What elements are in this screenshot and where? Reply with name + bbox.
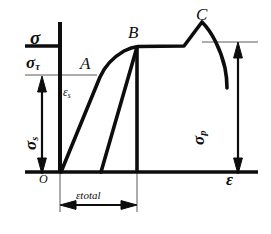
sigma-s-dimension-arrow bbox=[38, 76, 47, 174]
sigma-p-dimension-arrow bbox=[234, 42, 243, 174]
loading-curve bbox=[61, 22, 227, 172]
epsilon-total-subscript: total bbox=[80, 189, 100, 201]
sigma-p-symbol: σ bbox=[189, 136, 208, 145]
arrowhead-right bbox=[121, 201, 137, 210]
sigma-tau-subscript: τ bbox=[35, 61, 40, 72]
x-axis-label: ε bbox=[226, 171, 233, 188]
epsilon-total-dimension-arrow bbox=[60, 201, 137, 210]
y-axis-label: σ bbox=[30, 28, 40, 47]
epsilon-s-subscript: s bbox=[68, 91, 71, 100]
sigma-tau-label: στ bbox=[26, 54, 40, 73]
sigma-tau-symbol: σ bbox=[26, 53, 35, 72]
epsilon-total-label: εtotal bbox=[76, 190, 101, 201]
sigma-s-symbol: σ bbox=[21, 141, 40, 150]
sigma-p-subscript: p bbox=[197, 131, 208, 136]
arrowhead-up bbox=[38, 76, 47, 92]
point-a-label: A bbox=[80, 55, 90, 72]
sigma-p-label: σp bbox=[190, 131, 209, 145]
sigma-s-label: σs bbox=[22, 137, 41, 150]
point-c-label: C bbox=[196, 6, 207, 23]
stress-strain-figure: σ στ σs σp εs εtotal A B C O ε bbox=[0, 0, 271, 234]
point-b-label: B bbox=[128, 24, 138, 41]
epsilon-s-label: εs bbox=[63, 86, 71, 99]
sigma-s-subscript: s bbox=[29, 137, 40, 141]
arrowhead-left bbox=[60, 201, 76, 210]
arrowhead-up bbox=[234, 42, 243, 58]
origin-label: O bbox=[39, 173, 48, 185]
